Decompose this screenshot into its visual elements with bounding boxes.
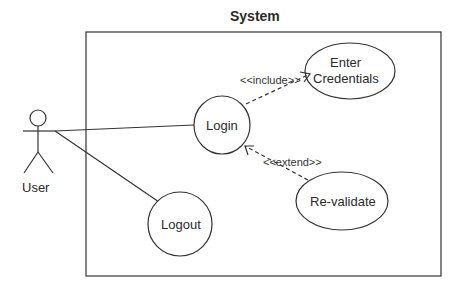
actor-label: User [22, 180, 49, 195]
association-user-login [55, 125, 194, 131]
association-user-logout [55, 131, 159, 202]
enter-credentials-label-line1: Enter [330, 55, 361, 70]
system-label: System [230, 9, 280, 24]
extend-arrowhead [245, 146, 254, 155]
actor-figure [23, 110, 55, 173]
extend-stereotype: <<extend>> [263, 155, 322, 170]
diagram-canvas [0, 0, 462, 288]
enter-credentials-label-line2: Credentials [313, 71, 379, 86]
login-label: Login [206, 118, 238, 133]
revalidate-label: Re-validate [310, 194, 376, 209]
logout-label: Logout [161, 217, 201, 232]
include-stereotype: <<include>> [240, 73, 301, 88]
